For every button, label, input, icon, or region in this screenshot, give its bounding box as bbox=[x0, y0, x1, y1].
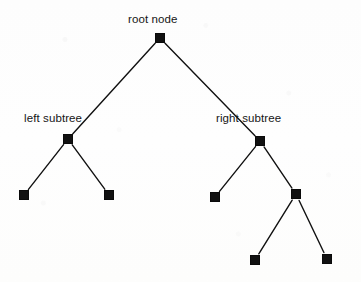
tree-node-rr-left[interactable] bbox=[250, 255, 260, 265]
tree-node-left-left[interactable] bbox=[19, 190, 29, 200]
label-left: left subtree bbox=[24, 112, 82, 125]
label-right: right subtree bbox=[216, 112, 281, 125]
tree-node-root[interactable] bbox=[155, 33, 165, 43]
tree-edge bbox=[72, 145, 105, 189]
tree-edge bbox=[299, 201, 324, 253]
tree-edge-layer bbox=[0, 0, 361, 282]
tree-node-left-right[interactable] bbox=[104, 190, 114, 200]
binary-tree-diagram: root nodeleft subtreeright subtree bbox=[0, 0, 361, 282]
tree-node-right-left[interactable] bbox=[210, 192, 220, 202]
tree-node-right[interactable] bbox=[255, 136, 265, 146]
label-root: root node bbox=[128, 13, 178, 26]
tree-node-rr-right[interactable] bbox=[322, 254, 332, 264]
tree-edge bbox=[28, 145, 63, 190]
tree-edge bbox=[264, 147, 292, 188]
tree-edge bbox=[73, 43, 155, 133]
tree-node-left[interactable] bbox=[63, 134, 73, 144]
tree-edge bbox=[259, 200, 292, 254]
tree-edge bbox=[220, 147, 256, 192]
tree-node-right-right[interactable] bbox=[291, 189, 301, 199]
